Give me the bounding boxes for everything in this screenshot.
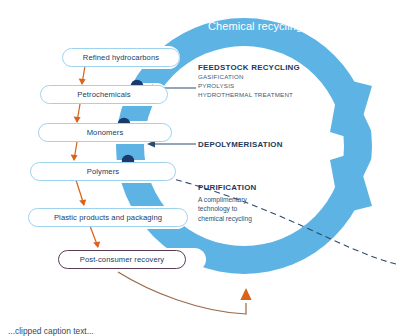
callout-purification-line-2: technology to [198,204,257,213]
callout-depolymerisation: DEPOLYMERISATION [198,140,283,150]
chain-pill-post-consumer-recovery[interactable]: Post-consumer recovery [58,250,186,269]
callout-feedstock-recycling: FEEDSTOCK RECYCLING GASIFICATION PYROLYS… [198,63,300,100]
figure-caption: ...clipped caption text... [8,326,392,336]
callout-feedstock-heading: FEEDSTOCK RECYCLING [198,63,300,73]
chain-pill-monomers[interactable]: Monomers [38,123,172,142]
callout-purification-line-1: A complimentary [198,195,257,204]
callout-purification-heading: PURIFICATION [198,183,257,193]
diagram-title: Chemical recycling [208,20,302,32]
callout-feedstock-line-1: GASIFICATION [198,73,300,82]
chain-pill-refined-hydrocarbons[interactable]: Refined hydrocarbons [62,48,180,67]
chain-pill-petrochemicals[interactable]: Petrochemicals [40,85,168,104]
chain-pill-polymers[interactable]: Polymers [30,162,176,181]
chain-pill-plastic-products-and-packaging[interactable]: Plastic products and packaging [28,208,188,227]
callout-purification-line-3: chemical recycling [198,214,257,223]
callout-purification: PURIFICATION A complimentary technology … [198,183,257,223]
callout-feedstock-line-2: PYROLYSIS [198,82,300,91]
chemical-recycling-diagram: Chemical recycling Refined hydrocarbons … [0,0,400,336]
callout-depolymerisation-heading: DEPOLYMERISATION [198,140,283,150]
callout-feedstock-line-3: HYDROTHERMAL TREATMENT [198,91,300,100]
